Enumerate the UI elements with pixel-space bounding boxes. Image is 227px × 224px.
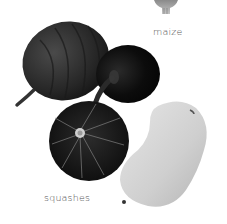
butternut-squash-icon: [120, 101, 207, 206]
maize-icon: [154, 0, 178, 14]
maize-label: maize: [153, 26, 183, 37]
kabocha-squash-icon: [49, 101, 129, 181]
squashes-label: squashes: [44, 192, 90, 203]
photo-scene: maize squashes: [0, 0, 227, 224]
squashes-illustration: [0, 0, 227, 224]
